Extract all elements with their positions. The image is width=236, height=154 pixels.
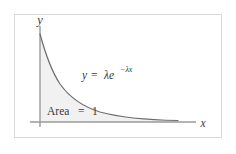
x-axis-label: x: [199, 117, 206, 129]
figure-canvas: y x y = λe −λx Area = 1: [0, 0, 236, 154]
area-label-value: 1: [92, 105, 98, 117]
y-axis-label: y: [35, 13, 43, 27]
area-label-text: Area: [47, 105, 69, 117]
curve-equation-lhs: y: [81, 69, 88, 82]
curve-equation-rhs-exponent: −λx: [120, 65, 133, 74]
exponential-pdf-figure: y x y = λe −λx Area = 1: [0, 0, 236, 154]
curve-equation-rhs-base: λe: [103, 69, 114, 81]
area-label-equals: =: [78, 105, 85, 117]
curve-equation-equals: =: [91, 69, 98, 81]
